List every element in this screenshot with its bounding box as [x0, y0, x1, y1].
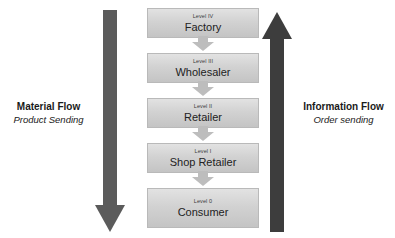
supply-chain-levels: Level IV Factory Level III Wholesaler Le… — [147, 0, 259, 238]
material-flow-arrow-head — [95, 205, 125, 232]
supply-chain-diagram: Material Flow Product Sending Informatio… — [0, 0, 395, 238]
chain-node-retailer: Level II Retailer — [147, 98, 259, 128]
chevron-down-icon — [192, 36, 214, 51]
chain-node-level-label: Level I — [195, 148, 212, 155]
information-flow-caption: Information Flow Order sending — [296, 100, 391, 126]
chevron-down-icon — [192, 126, 214, 141]
chevron-down-icon — [192, 81, 214, 96]
material-flow-title: Material Flow — [1, 100, 96, 113]
chain-node-factory: Level IV Factory — [147, 8, 259, 38]
material-flow-caption: Material Flow Product Sending — [1, 100, 96, 126]
chain-node-name: Wholesaler — [175, 66, 230, 79]
chevron-head — [192, 132, 214, 141]
information-flow-arrow-head — [262, 12, 292, 39]
chain-node-shop-retailer: Level I Shop Retailer — [147, 143, 259, 173]
chain-node-name: Consumer — [178, 206, 229, 219]
chain-node-name: Shop Retailer — [170, 156, 237, 169]
chain-node-name: Retailer — [184, 111, 222, 124]
chain-node-level-label: Level II — [194, 103, 213, 110]
material-flow-arrow-down-icon — [95, 10, 125, 232]
information-flow-arrow-up-icon — [262, 12, 292, 232]
chevron-head — [192, 87, 214, 96]
chevron-head — [192, 177, 214, 186]
material-flow-subtitle: Product Sending — [1, 113, 96, 126]
information-flow-arrow-shaft — [270, 38, 284, 232]
chevron-head — [192, 42, 214, 51]
chain-node-level-label: Level III — [193, 58, 213, 65]
chain-node-level-label: Level 0 — [194, 198, 212, 205]
chain-node-level-label: Level IV — [193, 13, 214, 20]
chain-node-consumer: Level 0 Consumer — [147, 188, 259, 228]
chain-node-wholesaler: Level III Wholesaler — [147, 53, 259, 83]
chevron-down-icon — [192, 171, 214, 186]
material-flow-arrow-shaft — [103, 10, 117, 206]
chain-node-name: Factory — [185, 21, 222, 34]
information-flow-subtitle: Order sending — [296, 113, 391, 126]
information-flow-title: Information Flow — [296, 100, 391, 113]
